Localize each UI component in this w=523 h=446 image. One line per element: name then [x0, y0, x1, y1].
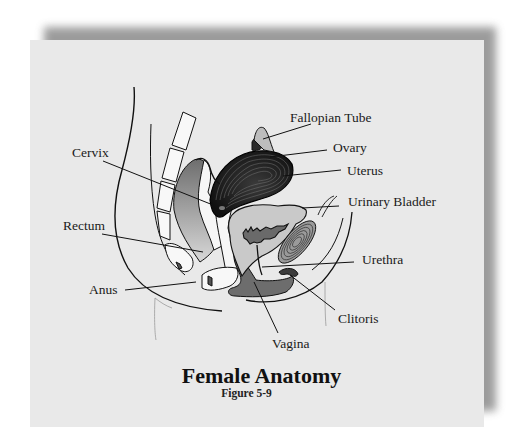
- leader-urinary-bladder: [302, 206, 339, 208]
- label-urinary-bladder: Urinary Bladder: [348, 195, 436, 209]
- label-vagina: Vagina: [272, 337, 310, 351]
- label-ovary: Ovary: [333, 141, 367, 155]
- label-cervix: Cervix: [72, 146, 109, 160]
- figure-number: Figure 5-9: [0, 388, 493, 400]
- label-rectum: Rectum: [63, 219, 105, 233]
- label-clitoris: Clitoris: [338, 312, 379, 326]
- label-uterus: Uterus: [347, 164, 383, 178]
- clitoris-organ: [279, 268, 298, 276]
- anus-organ: [202, 267, 238, 290]
- figure-title: Female Anatomy: [0, 365, 523, 387]
- leader-urethra: [262, 262, 354, 267]
- leader-fallopian-tube: [263, 124, 311, 139]
- leader-anus: [125, 282, 196, 290]
- leader-clitoris: [290, 275, 335, 310]
- label-anus: Anus: [89, 283, 118, 297]
- label-urethra: Urethra: [362, 253, 403, 267]
- label-fallopian-tube: Fallopian Tube: [290, 111, 371, 125]
